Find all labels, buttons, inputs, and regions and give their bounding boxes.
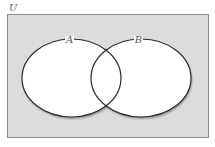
- set-b-label: B: [134, 34, 142, 45]
- venn-diagram: U A B: [0, 0, 215, 147]
- set-a-label: A: [65, 34, 73, 45]
- universe-label: U: [9, 2, 18, 13]
